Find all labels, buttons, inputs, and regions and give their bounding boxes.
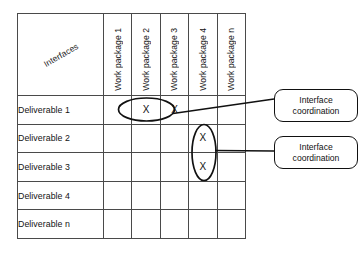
row-header-deliverable-2: Deliverable 2	[18, 124, 104, 153]
interface-coordination-matrix: Interfaces Work package 1 Work package 2…	[17, 13, 246, 239]
matrix-header-row: Interfaces Work package 1 Work package 2…	[18, 14, 246, 96]
callout-interface-coordination-1: Interfacecoordination	[274, 89, 358, 122]
matrix-cell	[132, 181, 160, 210]
matrix-cell	[217, 181, 245, 210]
matrix-cell	[160, 181, 188, 210]
row-header-deliverable-1: Deliverable 1	[18, 96, 104, 125]
cell-mark: X	[132, 105, 159, 115]
column-header-work-package-3: Work package 3	[160, 14, 188, 96]
matrix-cell	[104, 153, 132, 182]
matrix-cell: X	[160, 96, 188, 125]
column-header-work-package-1: Work package 1	[104, 14, 132, 96]
matrix-cell	[189, 210, 217, 239]
callout-line-1: Interface	[299, 142, 332, 152]
column-header-label: Work package 3	[169, 28, 179, 91]
callout-text: Interfacecoordination	[290, 95, 343, 115]
matrix-cell	[104, 124, 132, 153]
callout-line-1: Interface	[299, 95, 332, 105]
matrix-cell	[132, 124, 160, 153]
matrix-corner-cell: Interfaces	[18, 14, 104, 96]
matrix-cell	[217, 124, 245, 153]
matrix-cell: X	[132, 96, 160, 125]
row-header-deliverable-4: Deliverable 4	[18, 181, 104, 210]
cell-mark: X	[189, 133, 216, 143]
matrix-row: Deliverable 2 X	[18, 124, 246, 153]
matrix-cell	[189, 181, 217, 210]
matrix-cell	[132, 153, 160, 182]
callout-line-2: coordination	[293, 106, 340, 116]
matrix-cell: X	[189, 153, 217, 182]
callout-interface-coordination-2: Interfacecoordination	[274, 136, 358, 169]
column-header-label: Work package 4	[198, 28, 208, 91]
column-header-label: Work package n	[226, 28, 236, 91]
column-header-work-package-2: Work package 2	[132, 14, 160, 96]
matrix-cell	[189, 96, 217, 125]
column-header-label: Work package 2	[141, 28, 151, 91]
matrix-cell	[104, 96, 132, 125]
callout-line-2: coordination	[293, 153, 340, 163]
cell-mark: X	[189, 162, 216, 172]
column-header-label: Work package 1	[113, 28, 123, 91]
matrix-cell	[104, 210, 132, 239]
matrix-cell	[217, 210, 245, 239]
matrix-cell	[104, 181, 132, 210]
matrix-cell	[160, 210, 188, 239]
matrix-row: Deliverable 3 X	[18, 153, 246, 182]
matrix-row: Deliverable 4	[18, 181, 246, 210]
matrix-cell	[160, 153, 188, 182]
row-header-deliverable-n: Deliverable n	[18, 210, 104, 239]
diagram-canvas: Interfaces Work package 1 Work package 2…	[0, 0, 363, 253]
corner-label-interfaces: Interfaces	[41, 41, 79, 69]
matrix-cell	[160, 124, 188, 153]
column-header-work-package-n: Work package n	[217, 14, 245, 96]
matrix-row: Deliverable n	[18, 210, 246, 239]
matrix-cell: X	[189, 124, 217, 153]
matrix-cell	[132, 210, 160, 239]
column-header-work-package-4: Work package 4	[189, 14, 217, 96]
cell-mark: X	[161, 105, 188, 115]
matrix-row: Deliverable 1 X X	[18, 96, 246, 125]
matrix-cell	[217, 96, 245, 125]
callout-text: Interfacecoordination	[290, 142, 343, 162]
row-header-deliverable-3: Deliverable 3	[18, 153, 104, 182]
matrix-cell	[217, 153, 245, 182]
